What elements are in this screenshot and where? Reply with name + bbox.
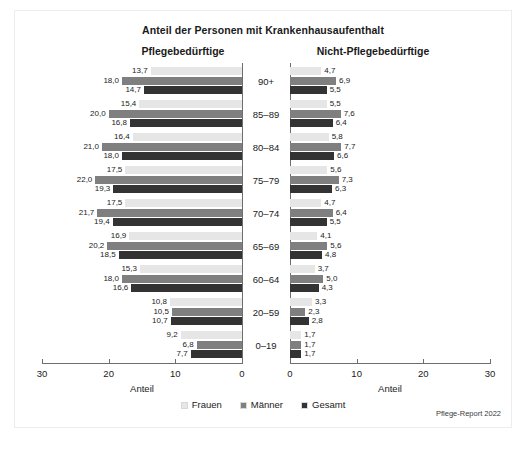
source-note: Pflege-Report 2022 — [436, 409, 501, 418]
bar-left-frauen — [129, 232, 242, 240]
bar-left-gesamt — [113, 218, 242, 226]
bar-right-gesamt — [290, 152, 334, 160]
bar-right-männer — [290, 209, 333, 217]
bar-value-label: 7,7 — [167, 350, 188, 358]
bar-left-gesamt — [113, 185, 242, 193]
axis-tick-label-left: 0 — [227, 368, 257, 379]
bar-right-männer — [290, 341, 301, 349]
axis-tick-right — [357, 359, 358, 363]
bar-left-männer — [122, 77, 242, 85]
age-group-label: 85–89 — [242, 109, 290, 120]
bar-value-label: 7,7 — [344, 143, 355, 151]
legend-label: Frauen — [192, 399, 222, 410]
axis-baseline-right — [290, 363, 491, 364]
bar-left-männer — [109, 110, 242, 118]
bar-value-label: 5,6 — [330, 166, 341, 174]
bar-value-label: 1,7 — [304, 350, 315, 358]
bar-right-gesamt — [290, 218, 327, 226]
bar-left-gesamt — [144, 86, 242, 94]
bar-value-label: 2,8 — [312, 317, 323, 325]
bar-value-label: 3,7 — [318, 265, 329, 273]
bar-value-label: 14,7 — [120, 86, 141, 94]
axis-tick-left — [42, 359, 43, 363]
bar-value-label: 1,7 — [304, 341, 315, 349]
age-group-label: 65–69 — [242, 241, 290, 252]
bar-value-label: 10,7 — [147, 317, 168, 325]
bar-value-label: 5,5 — [330, 86, 341, 94]
bar-right-männer — [290, 308, 305, 316]
bar-value-label: 5,5 — [330, 218, 341, 226]
bar-value-label: 18,5 — [95, 251, 116, 259]
bar-left-gesamt — [131, 284, 242, 292]
bar-value-label: 5,0 — [326, 275, 337, 283]
axis-tick-right — [290, 359, 291, 363]
axis-tick-label-right: 10 — [342, 368, 372, 379]
bar-left-männer — [97, 209, 242, 217]
bar-value-label: 4,8 — [325, 251, 336, 259]
bar-left-frauen — [125, 166, 242, 174]
axis-name-left: Anteil — [112, 383, 172, 394]
bar-value-label: 4,7 — [324, 199, 335, 207]
bar-value-label: 16,8 — [106, 119, 127, 127]
bar-value-label: 19,4 — [89, 218, 110, 226]
age-group-label: 60–64 — [242, 274, 290, 285]
bar-value-label: 16,4 — [109, 133, 130, 141]
bar-right-frauen — [290, 265, 315, 273]
bar-value-label: 13,7 — [127, 67, 148, 75]
bar-left-männer — [95, 176, 242, 184]
bar-value-label: 4,7 — [324, 67, 335, 75]
bar-value-label: 17,5 — [101, 166, 122, 174]
axis-tick-right — [490, 359, 491, 363]
bar-value-label: 3,3 — [315, 298, 326, 306]
bar-value-label: 5,8 — [332, 133, 343, 141]
bar-right-frauen — [290, 298, 312, 306]
legend-label: Gesamt — [312, 399, 345, 410]
bar-right-männer — [290, 110, 341, 118]
bar-right-frauen — [290, 133, 329, 141]
bar-left-gesamt — [122, 152, 242, 160]
axis-tick-left — [242, 359, 243, 363]
bar-right-frauen — [290, 166, 327, 174]
bar-left-männer — [102, 143, 242, 151]
bar-value-label: 6,4 — [336, 119, 347, 127]
bar-right-männer — [290, 242, 327, 250]
bar-left-frauen — [139, 100, 242, 108]
age-group-label: 75–79 — [242, 175, 290, 186]
bar-left-gesamt — [130, 119, 242, 127]
bar-right-frauen — [290, 67, 321, 75]
axis-tick-label-left: 30 — [27, 368, 57, 379]
bar-value-label: 7,6 — [344, 110, 355, 118]
bar-value-label: 10,8 — [146, 298, 167, 306]
bar-value-label: 20,2 — [83, 242, 104, 250]
bar-right-männer — [290, 77, 336, 85]
bar-value-label: 9,2 — [157, 331, 178, 339]
legend-item-frauen: Frauen — [181, 399, 222, 410]
axis-tick-label-left: 10 — [160, 368, 190, 379]
bar-value-label: 6,4 — [336, 209, 347, 217]
axis-tick-label-right: 20 — [408, 368, 438, 379]
bar-left-frauen — [133, 133, 242, 141]
bar-value-label: 4,1 — [320, 232, 331, 240]
bar-value-label: 7,3 — [342, 176, 353, 184]
bar-left-frauen — [125, 199, 242, 207]
bar-value-label: 22,0 — [71, 176, 92, 184]
legend-swatch-icon — [240, 402, 247, 409]
bar-left-frauen — [170, 298, 242, 306]
axis-baseline-left — [42, 363, 243, 364]
axis-tick-left — [175, 359, 176, 363]
age-group-label: 90+ — [242, 76, 290, 87]
bar-value-label: 5,6 — [330, 242, 341, 250]
bar-right-männer — [290, 275, 323, 283]
bar-value-label: 15,3 — [116, 265, 137, 273]
age-group-label: 20–59 — [242, 307, 290, 318]
bar-right-frauen — [290, 232, 317, 240]
axis-tick-label-right: 30 — [475, 368, 505, 379]
bar-value-label: 16,9 — [105, 232, 126, 240]
bar-left-gesamt — [119, 251, 242, 259]
bar-left-männer — [197, 341, 242, 349]
legend-label: Männer — [251, 399, 283, 410]
bar-right-frauen — [290, 100, 327, 108]
bar-value-label: 18,0 — [98, 77, 119, 85]
bar-right-männer — [290, 143, 341, 151]
bar-value-label: 15,4 — [115, 100, 136, 108]
